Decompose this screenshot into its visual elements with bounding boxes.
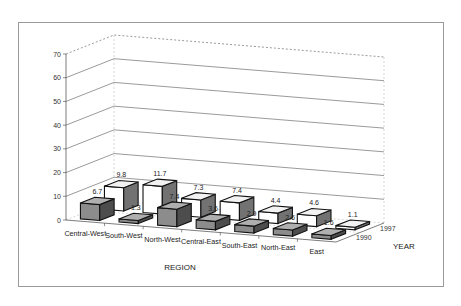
value-label: 1.1 <box>348 211 358 218</box>
y-tick-label: 10 <box>53 193 61 200</box>
category-label: North-East <box>261 243 295 252</box>
y-tick-label: 60 <box>53 74 61 81</box>
gridline <box>66 59 384 81</box>
bar-chart-3d: 010203040506070 1.14.64.47.47.311.79.81.… <box>0 0 461 306</box>
value-label: 2.9 <box>247 210 257 217</box>
x-axis-title: REGION <box>164 263 196 272</box>
value-label: 4.6 <box>309 199 319 206</box>
category-label: South-East <box>222 241 258 250</box>
bar-1997-east: 1.1 <box>336 211 370 230</box>
value-label: 1.6 <box>324 219 334 226</box>
y-tick-label: 0 <box>57 217 61 224</box>
y-tick-label: 70 <box>53 51 61 58</box>
depth-label: 1990 <box>356 234 372 241</box>
value-label: 2.6 <box>285 214 295 221</box>
gridline <box>66 35 384 57</box>
y-tick-label: 40 <box>53 122 61 129</box>
gridline <box>66 82 384 104</box>
value-label: 7.4 <box>170 193 180 200</box>
depth-label: 1997 <box>380 225 396 232</box>
bars: 1.14.64.47.47.311.79.81.62.62.93.67.41.3… <box>80 170 369 239</box>
z-axis-title: YEAR <box>393 242 415 251</box>
value-label: 9.8 <box>116 171 126 178</box>
value-label: 1.3 <box>131 204 141 211</box>
category-label: Central-West <box>64 229 106 238</box>
category-label: North-West <box>144 235 180 244</box>
category-label: South-West <box>105 231 142 240</box>
value-label: 7.3 <box>194 184 204 191</box>
value-label: 6.7 <box>92 188 102 195</box>
y-tick-label: 50 <box>53 98 61 105</box>
value-label: 3.6 <box>208 205 218 212</box>
value-label: 11.7 <box>153 170 166 177</box>
value-label: 4.4 <box>271 197 281 204</box>
value-label: 7.4 <box>232 187 242 194</box>
y-tick-label: 30 <box>53 145 61 152</box>
y-tick-label: 20 <box>53 169 61 176</box>
category-label: East <box>310 247 324 256</box>
category-label: Central-East <box>181 237 221 246</box>
